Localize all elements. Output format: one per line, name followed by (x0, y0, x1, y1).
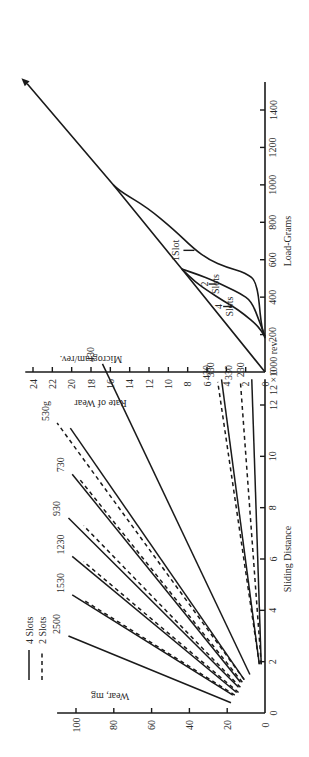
series-label-2500: 2500 (51, 614, 62, 634)
wear-charts-figure: 024681012 020406080100 25001530123093073… (0, 0, 309, 757)
tick-label: 8 (268, 505, 279, 510)
tick-label: 800 (268, 215, 279, 230)
tick-label: 10 (268, 451, 279, 461)
tick-label: 100 (71, 718, 82, 733)
series-label-4-slots: Slots (224, 296, 235, 316)
tick-label: 0 (260, 382, 271, 387)
rate-series-curves (27, 84, 265, 372)
tick-label: 20 (222, 720, 233, 730)
tick-label: 4 (268, 608, 279, 613)
tick-label: 16 (105, 379, 116, 389)
series-label-1530-4-slots: 1530 (55, 573, 66, 593)
tick-label: 10 (163, 379, 174, 389)
tick-label: 12 (144, 379, 155, 389)
tick-label: 20 (66, 379, 77, 389)
series-label-4-slots: 4 (213, 304, 224, 309)
wear-series-lines (57, 364, 261, 703)
rate-of-wear-axis-label: Rate of Wear (74, 398, 127, 409)
series-label-730-4-slots: 730 (55, 457, 66, 472)
series-label-1-slot: 1Slot (170, 240, 181, 261)
tick-label: 6 (202, 382, 213, 387)
tick-label: 2 (268, 659, 279, 664)
tick-label: 200 (268, 327, 279, 342)
tick-label: 8 (182, 382, 193, 387)
tick-label: 80 (108, 720, 119, 730)
series-label-930-4-slots: 930 (51, 501, 62, 516)
tick-label: 2 (240, 382, 251, 387)
rate-of-wear-vs-load-chart: 0200400600800100012001400 02468101214161… (21, 78, 292, 409)
tick-label: 12 (268, 400, 279, 410)
legend-label-4-slots: 4 Slots (24, 616, 35, 644)
tick-label: 60 (146, 720, 157, 730)
tick-label: 1400 (268, 100, 279, 120)
series-label-2-slots: Slots (210, 274, 221, 294)
tick-label: 1000 (268, 175, 279, 195)
tick-label: 18 (86, 379, 97, 389)
series-line-330-2-slots (240, 382, 261, 664)
rate-series-labels: 1Slot2Slots4Slots (170, 240, 235, 317)
series-label-530g-2-slots: 530g (40, 401, 51, 421)
series-curve-1-slot (113, 185, 265, 338)
legend: 4 Slots 2 Slots (24, 616, 48, 680)
series-label-2-slots: 2 (199, 282, 210, 287)
series-line-530g-2-slots (57, 423, 244, 680)
sliding-distance-axis-label: Sliding Distance (282, 525, 293, 592)
tick-label: 0 (260, 723, 271, 728)
sliding-distance-ticks: 024681012 (260, 400, 279, 716)
tick-label: 0 (268, 711, 279, 716)
rate-of-wear-unit-label: Microgram/rev. (60, 354, 122, 365)
tick-label: 600 (268, 252, 279, 267)
tick-label: 400 (268, 290, 279, 305)
tick-label: 14 (124, 379, 135, 389)
series-curve-reference-line-no-slots (27, 84, 265, 372)
tick-label: 40 (184, 720, 195, 730)
series-line-730-2-slots (80, 479, 243, 682)
legend-label-2-slots: 2 Slots (37, 616, 48, 644)
series-label-230-4-slots: 230 (235, 362, 246, 377)
tick-label: 22 (47, 379, 58, 389)
wear-vs-sliding-distance-chart: 024681012 020406080100 25001530123093073… (24, 340, 293, 733)
series-line-1530-4-slots (72, 595, 233, 695)
tick-label: 4 (221, 382, 232, 387)
series-line-530-4-slots (70, 428, 244, 680)
tick-label: 1200 (268, 137, 279, 157)
wear-ticks: 020406080100 (71, 708, 271, 733)
load-axis-label: Load-Grams (282, 216, 293, 267)
wear-axis-label: Wear, mg (91, 691, 129, 702)
tick-label: 6 (268, 557, 279, 562)
series-label-1230-4-slots: 1230 (55, 534, 66, 554)
series-line-930-4-slots (68, 518, 238, 687)
tick-label: 24 (28, 379, 39, 389)
series-label-330-4-slots: 330 (205, 362, 216, 377)
tick-label: 0 (268, 370, 279, 375)
